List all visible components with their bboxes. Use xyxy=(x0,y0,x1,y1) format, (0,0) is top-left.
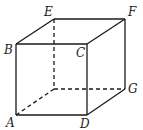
vertex-label-B: B xyxy=(3,43,13,57)
vertex-label-E: E xyxy=(43,5,53,19)
cube-diagram: ABCDEFG xyxy=(0,0,143,130)
cube-figure: ABCDEFG xyxy=(0,0,143,130)
vertex-label-C: C xyxy=(76,46,85,60)
edge-GD xyxy=(87,89,125,115)
vertex-label-D: D xyxy=(79,117,90,130)
hidden-edge-HA xyxy=(16,89,54,115)
vertex-label-F: F xyxy=(127,5,137,19)
vertex-label-G: G xyxy=(128,82,138,96)
edge-FC xyxy=(87,19,125,44)
edge-BE xyxy=(16,19,54,44)
vertex-label-A: A xyxy=(5,116,15,130)
